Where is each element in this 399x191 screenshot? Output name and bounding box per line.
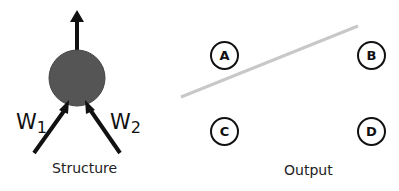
output-caption: Output xyxy=(284,162,333,178)
output-node-b: B xyxy=(357,41,386,70)
structure-caption: Structure xyxy=(52,160,117,176)
output-arrowhead xyxy=(70,10,84,22)
output-node-d: D xyxy=(357,117,386,146)
output-node-a: A xyxy=(210,41,239,70)
weight-label-w1: W1 xyxy=(16,110,47,137)
decision-boundary-line xyxy=(181,26,358,97)
output-node-c: C xyxy=(210,117,239,146)
weight-label-w2: W2 xyxy=(110,110,141,137)
neuron-node xyxy=(49,50,105,106)
